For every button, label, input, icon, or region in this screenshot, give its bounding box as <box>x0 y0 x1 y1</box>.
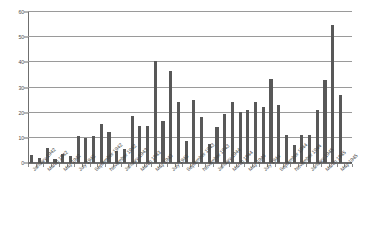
x-tick-mark <box>121 164 122 167</box>
x-axis-tick-labels: January 1942March 1942May 1942July 1942S… <box>28 168 358 226</box>
x-tick-label: November 1943 <box>201 168 205 172</box>
bar <box>239 112 242 163</box>
x-tick-mark <box>105 164 106 167</box>
x-tick-label: May 1945 <box>339 168 343 172</box>
bar <box>316 110 319 163</box>
x-tick-mark <box>167 164 168 167</box>
x-tick-mark <box>259 164 260 167</box>
x-tick-label: January 1942 <box>31 168 35 172</box>
bar <box>254 102 257 163</box>
bar <box>169 71 172 163</box>
x-tick-mark <box>90 164 91 167</box>
x-tick-label: January 1944 <box>216 168 220 172</box>
x-tick-mark <box>28 164 29 167</box>
x-tick-mark <box>306 164 307 167</box>
x-tick-mark <box>43 164 44 167</box>
bar-series <box>28 12 352 163</box>
x-tick-mark <box>198 164 199 167</box>
x-tick-mark <box>182 164 183 167</box>
x-tick-mark <box>321 164 322 167</box>
x-tick-mark <box>229 164 230 167</box>
bar <box>30 155 33 163</box>
x-tick-label: September 1943 <box>185 168 189 172</box>
bar <box>154 61 157 163</box>
x-tick-label: September 1942 <box>93 168 97 172</box>
bar <box>269 79 272 163</box>
x-tick-label: July 1943 <box>170 168 174 172</box>
x-tick-mark <box>213 164 214 167</box>
x-tick-mark <box>290 164 291 167</box>
x-tick-label: May 1943 <box>154 168 158 172</box>
x-tick-label: May 1944 <box>247 168 251 172</box>
x-tick-mark <box>59 164 60 167</box>
x-tick-label: March 1943 <box>139 168 143 172</box>
bar <box>177 102 180 163</box>
x-tick-label: May 1942 <box>62 168 66 172</box>
x-tick-label: March 1942 <box>46 168 50 172</box>
x-tick-mark <box>136 164 137 167</box>
x-tick-mark <box>352 164 353 167</box>
x-tick-mark <box>151 164 152 167</box>
bar-chart: 0102030405060 January 1942March 1942May … <box>0 0 365 226</box>
x-tick-label: January 1943 <box>123 168 127 172</box>
x-tick-label: November 1944 <box>293 168 297 172</box>
x-tick-label: January 1945 <box>309 168 313 172</box>
x-tick-label: July 1944 <box>262 168 266 172</box>
x-tick-mark <box>337 164 338 167</box>
x-tick-label: November 1942 <box>108 168 112 172</box>
y-axis-tick-labels: 0102030405060 <box>0 12 28 163</box>
x-tick-label: September 1944 <box>278 168 282 172</box>
plot-area <box>28 12 352 163</box>
x-tick-mark <box>244 164 245 167</box>
x-tick-mark <box>275 164 276 167</box>
bar <box>331 25 334 163</box>
x-tick-label: March 1945 <box>324 168 328 172</box>
x-tick-label: March 1944 <box>231 168 235 172</box>
x-tick-mark <box>74 164 75 167</box>
x-tick-label: July 1942 <box>77 168 81 172</box>
bar <box>223 114 226 163</box>
bar <box>192 100 195 163</box>
